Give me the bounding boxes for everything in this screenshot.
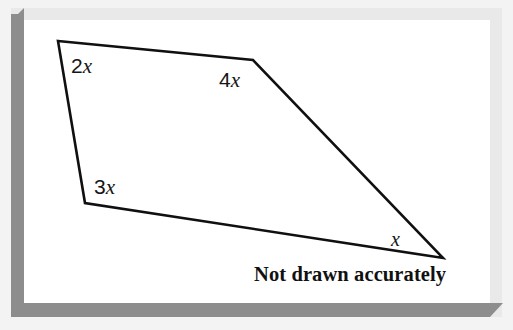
angle-label-top-right: 4x — [219, 69, 240, 91]
angle-label-top-left-variable: x — [83, 54, 92, 78]
frame-bevel-bottom-miter — [490, 303, 503, 317]
diagram-screenshot: 2x 4x 3x x Not drawn accurately — [0, 0, 513, 330]
frame-bevel-left — [11, 14, 24, 310]
angle-label-bottom-left: 3x — [94, 176, 115, 198]
frame-bevel-bottom — [11, 303, 490, 317]
figure-card — [24, 20, 490, 303]
angle-label-right: x — [391, 229, 400, 249]
angle-label-right-variable: x — [391, 228, 400, 250]
angle-label-top-left: 2x — [71, 55, 92, 77]
not-drawn-accurately-caption: Not drawn accurately — [254, 264, 446, 285]
angle-label-bottom-left-variable: x — [106, 175, 115, 199]
angle-label-top-right-coefficient: 4 — [219, 68, 231, 91]
angle-label-top-left-coefficient: 2 — [71, 54, 83, 77]
angle-label-top-right-variable: x — [231, 68, 240, 92]
angle-label-bottom-left-coefficient: 3 — [94, 175, 106, 198]
